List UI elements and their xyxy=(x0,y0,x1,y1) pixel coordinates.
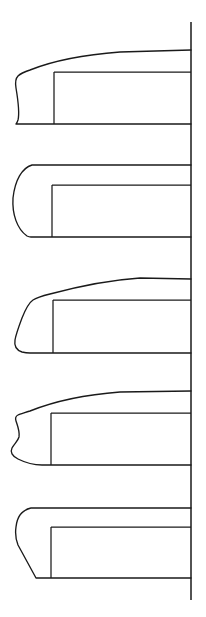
variant-3-body-outline xyxy=(15,278,191,353)
profile-variant-5 xyxy=(16,508,191,578)
variant-2-body-outline xyxy=(13,165,191,237)
profile-variant-4 xyxy=(11,391,191,465)
profile-variant-2 xyxy=(13,165,191,237)
variant-5-body-outline xyxy=(16,508,191,578)
variant-4-body-outline xyxy=(11,391,191,465)
profile-variant-3 xyxy=(15,278,191,353)
profile-variant-1 xyxy=(16,50,191,124)
vehicle-profile-diagram: Vehicle Front-End Profile Variants xyxy=(0,0,206,617)
variant-1-body-outline xyxy=(16,50,191,124)
diagram-canvas xyxy=(0,0,206,617)
